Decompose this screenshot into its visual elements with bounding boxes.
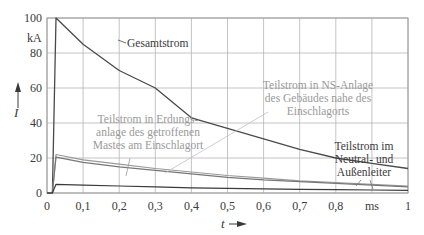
current-decay-chart: 00,10,20,30,40,50,60,70,8ms1020406080100… <box>0 0 424 235</box>
y-tick-label: 40 <box>30 116 42 130</box>
y-tick-label: 80 <box>30 46 42 60</box>
svg-text:Teilstrom in Erdungs-: Teilstrom in Erdungs- <box>98 113 199 126</box>
x-tick-label: 1 <box>405 199 411 213</box>
x-axis-title: t <box>221 216 247 231</box>
svg-text:Teilstrom im: Teilstrom im <box>335 140 394 152</box>
x-tick-label: ms <box>365 199 379 213</box>
svg-text:Neutral- und: Neutral- und <box>335 153 394 165</box>
up-arrow-icon <box>15 82 21 92</box>
x-tick-label: 0,4 <box>184 199 199 213</box>
y-axis-title: I <box>13 82 21 120</box>
x-tick-label: 0,2 <box>112 199 127 213</box>
svg-text:Teilstrom in NS-Anlage: Teilstrom in NS-Anlage <box>263 79 373 92</box>
label-neutralleiter: Teilstrom im Neutral- und Außenleiter <box>335 140 394 178</box>
x-tick-label: 0,1 <box>76 199 91 213</box>
x-tick-label: 0,3 <box>148 199 163 213</box>
svg-text:des Gebäudes nahe des: des Gebäudes nahe des <box>265 92 372 104</box>
y-tick-label: 20 <box>30 151 42 165</box>
svg-text:Mastes am Einschlagort: Mastes am Einschlagort <box>93 139 204 152</box>
svg-text:Außenleiter: Außenleiter <box>337 166 391 178</box>
x-tick-label: 0,5 <box>220 199 235 213</box>
label-gesamtstrom: Gesamtstrom <box>127 37 188 49</box>
x-tick-label: 0,7 <box>292 199 307 213</box>
svg-text:Einschlagorts: Einschlagorts <box>287 105 350 118</box>
label-ns-anlage: Teilstrom in NS-Anlage des Gebäudes nahe… <box>263 79 373 118</box>
right-arrow-icon <box>237 221 247 227</box>
y-tick-label: 0 <box>36 186 42 200</box>
y-tick-label: 100 <box>24 11 42 25</box>
y-tick-label: 60 <box>30 81 42 95</box>
x-tick-label: 0,6 <box>256 199 271 213</box>
x-tick-label: 0 <box>44 199 50 213</box>
label-erdungsanlage: Teilstrom in Erdungs- anlage des getroff… <box>93 113 204 152</box>
svg-text:anlage des getroffenen: anlage des getroffenen <box>96 126 200 139</box>
y-unit-label: kA <box>27 31 42 45</box>
x-axis-symbol: t <box>221 216 225 231</box>
tick-labels: 00,10,20,30,40,50,60,70,8ms1020406080100 <box>24 11 411 213</box>
x-tick-label: 0,8 <box>328 199 343 213</box>
